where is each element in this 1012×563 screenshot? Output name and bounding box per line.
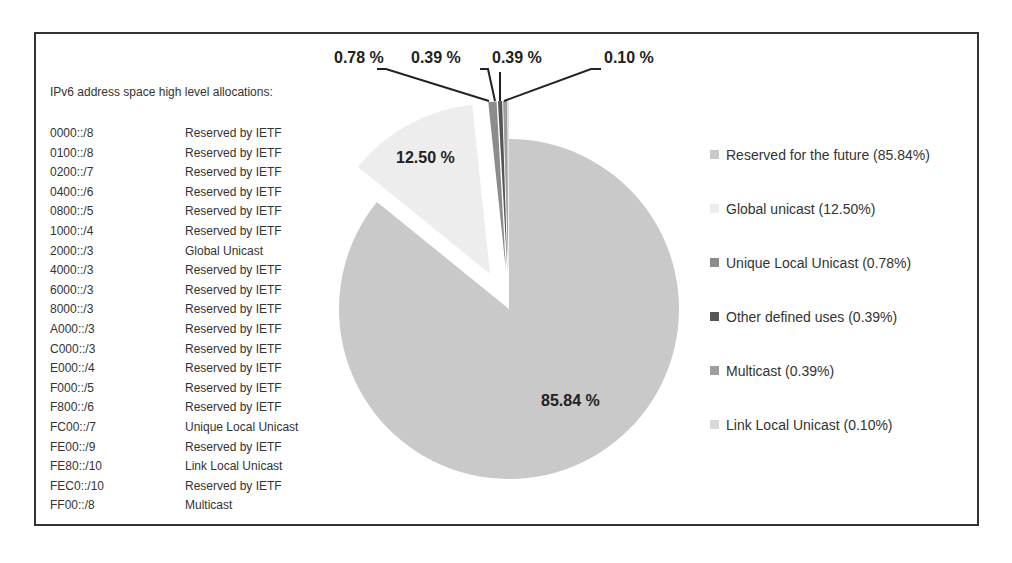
legend-swatch-icon <box>710 258 719 267</box>
legend-swatch-icon <box>710 150 719 159</box>
legend-label: Reserved for the future (85.84%) <box>726 145 930 165</box>
legend-swatch-icon <box>710 366 719 375</box>
legend-swatch-icon <box>710 312 719 321</box>
legend-item: Other defined uses (0.39%) <box>710 307 930 361</box>
legend-item: Reserved for the future (85.84%) <box>710 145 930 199</box>
chart-legend: Reserved for the future (85.84%)Global u… <box>710 145 930 469</box>
legend-label: Other defined uses (0.39%) <box>726 307 897 327</box>
data-label-reserved-future: 85.84 % <box>541 392 600 410</box>
data-label-multicast: 0.39 % <box>492 49 542 67</box>
legend-label: Global unicast (12.50%) <box>726 199 875 219</box>
data-label-global-unicast: 12.50 % <box>396 149 455 167</box>
legend-label: Link Local Unicast (0.10%) <box>726 415 893 435</box>
legend-swatch-icon <box>710 420 719 429</box>
legend-item: Unique Local Unicast (0.78%) <box>710 253 930 307</box>
legend-item: Multicast (0.39%) <box>710 361 930 415</box>
leader-line-other-defined <box>480 69 495 101</box>
data-label-unique-local: 0.78 % <box>334 49 384 67</box>
legend-swatch-icon <box>710 204 719 213</box>
legend-label: Multicast (0.39%) <box>726 361 834 381</box>
legend-label: Unique Local Unicast (0.78%) <box>726 253 911 273</box>
data-label-other-defined: 0.39 % <box>411 49 461 67</box>
leader-line-unique-local <box>377 69 489 101</box>
data-label-link-local: 0.10 % <box>604 49 654 67</box>
legend-item: Global unicast (12.50%) <box>710 199 930 253</box>
legend-item: Link Local Unicast (0.10%) <box>710 415 930 469</box>
leader-line-link-local <box>504 69 601 101</box>
